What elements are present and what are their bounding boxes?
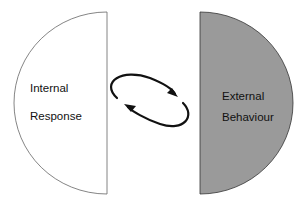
cycle-arrows-icon [111,75,188,127]
arrowhead-right [167,88,178,97]
external-behaviour-half-circle [200,12,293,194]
external-label-line2: Behaviour [222,111,274,123]
internal-label-line1: Internal [30,82,68,94]
diagram-canvas [0,0,308,204]
internal-label-line2: Response [30,110,82,122]
external-label-line1: External [222,90,264,102]
internal-response-half-circle [14,12,107,194]
